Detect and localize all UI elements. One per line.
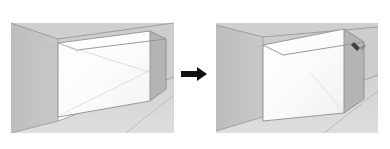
before-scene-render	[11, 17, 174, 133]
after-scene-render	[216, 17, 378, 133]
panel-after	[216, 17, 378, 133]
box-right-face	[344, 29, 364, 113]
step-arrow	[180, 64, 208, 84]
figure-canvas	[0, 0, 390, 149]
left-wall-face	[216, 25, 263, 131]
panel-before	[11, 17, 174, 133]
step-arrow-icon	[180, 64, 208, 84]
arrow-glyph	[181, 67, 207, 81]
left-wall-face	[11, 23, 58, 133]
